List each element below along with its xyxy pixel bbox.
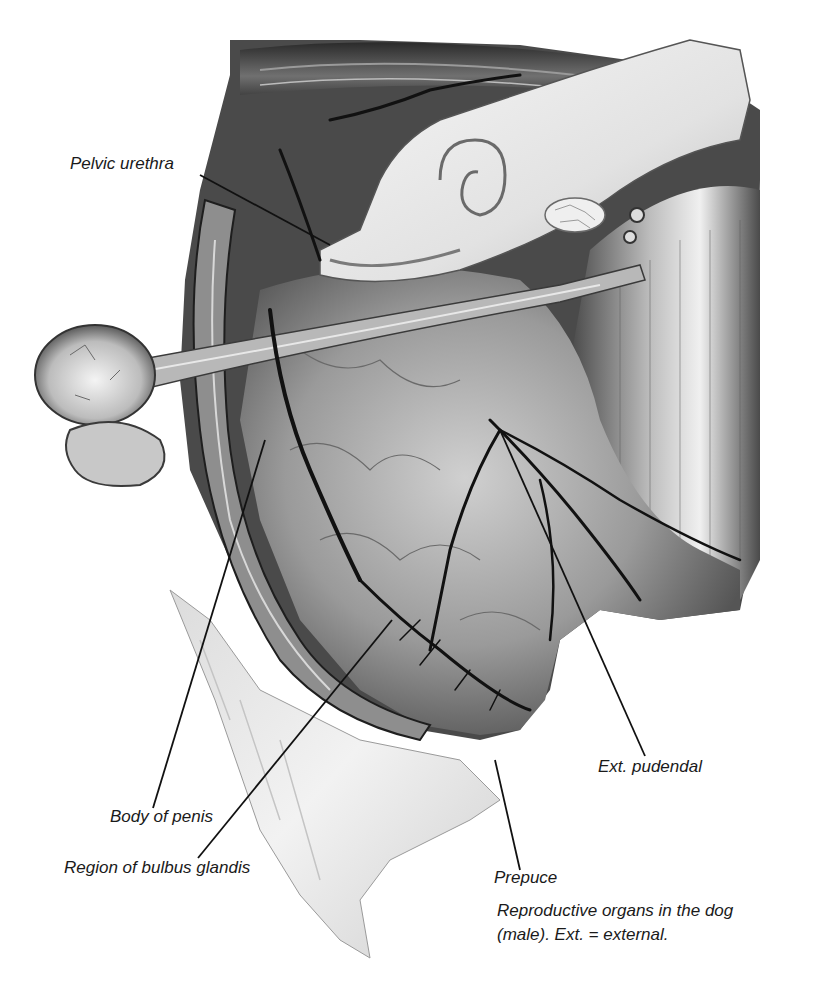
anatomical-illustration <box>0 0 824 995</box>
label-prepuce: Prepuce <box>494 868 557 888</box>
caption-line-1: Reproductive organs in the dog <box>497 899 733 923</box>
label-body-of-penis: Body of penis <box>110 807 213 827</box>
label-pelvic-urethra: Pelvic urethra <box>70 154 174 174</box>
testis <box>35 325 165 486</box>
figure-caption: Reproductive organs in the dog (male). E… <box>497 899 733 947</box>
label-region-of-bulbus-glandis: Region of bulbus glandis <box>64 858 250 878</box>
caption-line-2: (male). Ext. = external. <box>497 923 733 947</box>
label-ext-pudendal: Ext. pudendal <box>598 757 702 777</box>
